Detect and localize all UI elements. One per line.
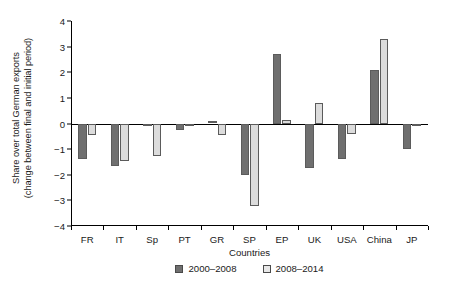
legend-label-light: 2008–2014 — [276, 263, 324, 274]
y-tick-label: 3 — [31, 41, 71, 52]
legend-item-2008-2014: 2008–2014 — [263, 263, 324, 274]
y-tick-mark — [67, 72, 71, 73]
bar-ep-series1 — [273, 54, 282, 123]
y-tick-mark — [67, 21, 71, 22]
legend-swatch-light — [263, 265, 271, 273]
x-tick-mark — [168, 226, 169, 230]
y-tick-label: 0 — [31, 118, 71, 129]
bar-gr-series2 — [218, 124, 227, 136]
x-tick-mark — [363, 226, 364, 230]
bar-jp-series2 — [412, 124, 421, 127]
y-tick-mark — [67, 97, 71, 98]
x-tick-label-uk: UK — [308, 234, 321, 245]
x-tick-label-it: IT — [115, 234, 124, 245]
bar-sp-series2 — [153, 124, 162, 156]
x-tick-mark — [396, 226, 397, 230]
x-tick-label-fr: FR — [81, 234, 94, 245]
x-tick-mark — [298, 226, 299, 230]
x-tick-mark — [103, 226, 104, 230]
bar-usa-series1 — [338, 124, 347, 160]
bar-usa-series2 — [347, 124, 356, 134]
y-tick-label: 1 — [31, 92, 71, 103]
x-tick-label-usa: USA — [337, 234, 357, 245]
bar-sp-series1 — [143, 124, 152, 127]
bar-uk-series2 — [315, 103, 324, 124]
bar-ep-series2 — [282, 120, 291, 124]
legend-swatch-dark — [175, 265, 183, 273]
x-tick-label-pt: PT — [178, 234, 190, 245]
y-tick-mark — [67, 174, 71, 175]
y-tick-label: 2 — [31, 67, 71, 78]
y-tick-label: −4 — [31, 221, 71, 232]
x-tick-mark — [428, 226, 429, 230]
bar-uk-series1 — [305, 124, 314, 169]
x-tick-mark — [136, 226, 137, 230]
x-tick-mark — [331, 226, 332, 230]
x-tick-label-ep: EP — [276, 234, 289, 245]
x-tick-label-sp: Sp — [146, 234, 158, 245]
y-tick-mark — [67, 200, 71, 201]
x-tick-mark — [266, 226, 267, 230]
bar-china-series2 — [380, 39, 389, 124]
bar-fr-series2 — [88, 124, 97, 136]
bar-it-series1 — [111, 124, 120, 166]
bar-pt-series1 — [176, 124, 185, 130]
x-tick-mark — [201, 226, 202, 230]
bar-sp-series2 — [250, 124, 259, 206]
x-tick-label-jp: JP — [406, 234, 417, 245]
plot-area: 43210−1−2−3−4 FRITSpPTGRSPEPUKUSAChinaJP — [71, 21, 428, 226]
y-axis-title-line1: Share over total German exports — [10, 37, 22, 197]
y-tick-label: 4 — [31, 16, 71, 27]
x-tick-mark — [71, 226, 72, 230]
bar-china-series1 — [370, 70, 379, 124]
x-tick-label-china: China — [367, 234, 392, 245]
bar-jp-series1 — [403, 124, 412, 150]
bar-fr-series1 — [78, 124, 87, 160]
x-tick-mark — [233, 226, 234, 230]
bar-pt-series2 — [185, 124, 194, 126]
bar-it-series2 — [120, 124, 129, 161]
chart-figure: Share over total German exports (change … — [0, 0, 460, 283]
x-tick-label-sp: SP — [243, 234, 256, 245]
x-axis-title: Countries — [71, 247, 428, 258]
y-tick-mark — [67, 123, 71, 124]
legend-item-2000-2008: 2000–2008 — [175, 263, 236, 274]
legend-label-dark: 2000–2008 — [188, 263, 236, 274]
bar-sp-series1 — [241, 124, 250, 175]
y-tick-mark — [67, 46, 71, 47]
chart-legend: 2000–2008 2008–2014 — [71, 263, 428, 274]
y-tick-label: −3 — [31, 195, 71, 206]
x-tick-label-gr: GR — [210, 234, 224, 245]
y-tick-label: −2 — [31, 169, 71, 180]
y-tick-mark — [67, 149, 71, 150]
bar-gr-series1 — [208, 121, 217, 123]
y-tick-label: −1 — [31, 144, 71, 155]
